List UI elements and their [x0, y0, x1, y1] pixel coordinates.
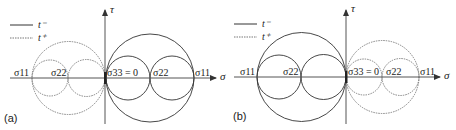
- s33-label-a: σ33 = 0: [107, 67, 138, 78]
- legend-b: t⁻ t⁺: [234, 18, 271, 42]
- panel-b: t⁻ t⁺ τ σ σ11 σ22 σ33 = 0 σ22 σ11 (b): [233, 2, 450, 124]
- sigma-label-b: σ: [444, 69, 450, 81]
- s11-right-label-b: σ11: [420, 66, 435, 77]
- s22-left-label-a: σ22: [51, 67, 66, 78]
- s33-label-b: σ33 = 0: [348, 66, 379, 77]
- legend-solid-label: t⁻: [262, 18, 271, 29]
- s11-left-label-b: σ11: [240, 66, 255, 77]
- panel-a: t⁻ t⁺ τ σ σ11 σ22 σ33 = 0 σ22 σ11 (a): [4, 3, 226, 124]
- tau-label-b: τ: [351, 2, 356, 14]
- legend-solid-label: t⁻: [38, 19, 47, 30]
- mohr-circle-figure: t⁻ t⁺ τ σ σ11 σ22 σ33 = 0 σ22 σ11 (a): [0, 0, 456, 130]
- s11-right-label-a: σ11: [195, 67, 210, 78]
- legend-a: t⁻ t⁺: [10, 19, 47, 43]
- panel-label-b: (b): [233, 110, 246, 122]
- legend-dotted-label: t⁺: [262, 31, 271, 42]
- s22-left-label-b: σ22: [283, 66, 298, 77]
- legend-dotted-label: t⁺: [38, 32, 47, 43]
- tau-label-a: τ: [110, 3, 115, 15]
- panel-label-a: (a): [4, 112, 17, 124]
- s22-right-label-b: σ22: [386, 66, 401, 77]
- s22-right-label-a: σ22: [153, 67, 168, 78]
- s11-left-label-a: σ11: [14, 67, 29, 78]
- sigma-label-a: σ: [220, 70, 226, 82]
